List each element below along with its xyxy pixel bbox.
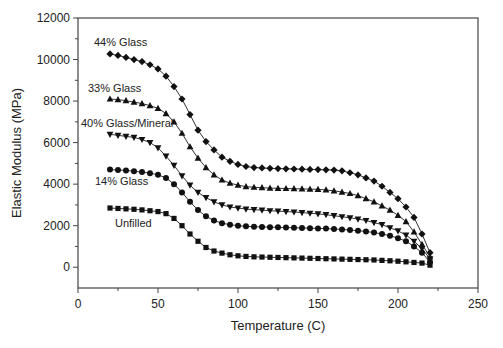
circle-marker-icon: [163, 175, 169, 181]
diamond-marker-icon: [314, 166, 321, 173]
circle-marker-icon: [283, 225, 289, 231]
diamond-marker-icon: [282, 165, 289, 172]
square-marker-icon: [379, 258, 384, 263]
triangle-up-marker-icon: [379, 202, 386, 208]
diamond-marker-icon: [346, 169, 353, 176]
square-marker-icon: [371, 257, 376, 262]
diamond-marker-icon: [234, 161, 241, 168]
diamond-marker-icon: [194, 127, 201, 134]
diamond-marker-icon: [130, 56, 137, 63]
diamond-marker-icon: [338, 167, 345, 174]
square-marker-icon: [163, 211, 168, 216]
y-tick-label: 12000: [37, 11, 71, 25]
series-label: 44% Glass: [94, 36, 148, 48]
series-label: Unfilled: [115, 217, 152, 229]
circle-marker-icon: [203, 213, 209, 219]
circle-marker-icon: [115, 167, 121, 173]
y-axis: 020004000600080001000012000: [37, 11, 78, 274]
square-marker-icon: [387, 258, 392, 263]
y-tick-label: 0: [63, 260, 70, 274]
square-marker-icon: [259, 254, 264, 259]
circle-marker-icon: [419, 250, 425, 256]
y-tick-label: 4000: [43, 177, 70, 191]
plot-frame: [78, 18, 478, 288]
square-marker-icon: [131, 207, 136, 212]
square-marker-icon: [195, 239, 200, 244]
square-marker-icon: [155, 209, 160, 214]
diamond-marker-icon: [362, 174, 369, 181]
series-14-glass: [107, 167, 433, 265]
square-marker-icon: [403, 259, 408, 264]
diamond-marker-icon: [146, 61, 153, 68]
diamond-marker-icon: [258, 164, 265, 171]
circle-marker-icon: [171, 181, 177, 187]
series-unfilled: [107, 205, 432, 267]
diamond-marker-icon: [330, 166, 337, 173]
circle-marker-icon: [211, 218, 217, 224]
triangle-up-marker-icon: [403, 218, 410, 224]
diamond-marker-icon: [290, 165, 297, 172]
square-marker-icon: [355, 257, 360, 262]
y-tick-label: 6000: [43, 136, 70, 150]
circle-marker-icon: [291, 225, 297, 231]
circle-marker-icon: [379, 231, 385, 237]
square-marker-icon: [211, 248, 216, 253]
circle-marker-icon: [331, 226, 337, 232]
square-marker-icon: [219, 251, 224, 256]
diamond-marker-icon: [274, 165, 281, 172]
x-tick-label: 50: [151, 297, 165, 311]
square-marker-icon: [347, 257, 352, 262]
series-label: 14% Glass: [95, 175, 149, 187]
triangle-up-marker-icon: [187, 143, 194, 149]
square-marker-icon: [139, 207, 144, 212]
triangle-up-marker-icon: [107, 95, 114, 101]
y-tick-label: 2000: [43, 219, 70, 233]
circle-marker-icon: [355, 228, 361, 234]
triangle-up-marker-icon: [395, 212, 402, 218]
triangle-up-marker-icon: [163, 110, 170, 116]
circle-marker-icon: [219, 220, 225, 226]
circle-marker-icon: [387, 233, 393, 239]
x-axis-title: Temperature (C): [231, 318, 326, 333]
square-marker-icon: [283, 255, 288, 260]
square-marker-icon: [107, 205, 112, 210]
series-line: [110, 134, 430, 259]
square-marker-icon: [339, 257, 344, 262]
circle-marker-icon: [411, 243, 417, 249]
diamond-marker-icon: [322, 166, 329, 173]
diamond-marker-icon: [242, 163, 249, 170]
circle-marker-icon: [187, 199, 193, 205]
square-marker-icon: [267, 255, 272, 260]
circle-marker-icon: [155, 172, 161, 178]
square-marker-icon: [123, 206, 128, 211]
square-marker-icon: [411, 260, 416, 265]
y-tick-label: 8000: [43, 94, 70, 108]
diamond-marker-icon: [122, 54, 129, 61]
circle-marker-icon: [123, 167, 129, 173]
square-marker-icon: [299, 255, 304, 260]
diamond-marker-icon: [138, 58, 145, 65]
x-tick-label: 0: [75, 297, 82, 311]
circle-marker-icon: [259, 224, 265, 230]
circle-marker-icon: [339, 226, 345, 232]
circle-marker-icon: [227, 222, 233, 228]
square-marker-icon: [427, 263, 432, 268]
circle-marker-icon: [307, 225, 313, 231]
triangle-down-marker-icon: [147, 140, 154, 146]
square-marker-icon: [331, 256, 336, 261]
square-marker-icon: [251, 254, 256, 259]
square-marker-icon: [291, 255, 296, 260]
circle-marker-icon: [363, 229, 369, 235]
diamond-marker-icon: [250, 164, 257, 171]
circle-marker-icon: [243, 223, 249, 229]
triangle-up-marker-icon: [219, 176, 226, 182]
diamond-marker-icon: [106, 50, 113, 57]
square-marker-icon: [307, 256, 312, 261]
diamond-marker-icon: [418, 230, 425, 237]
series-label: 40% Glass/Mineral: [81, 117, 173, 129]
square-marker-icon: [171, 216, 176, 221]
triangle-down-marker-icon: [403, 232, 410, 238]
circle-marker-icon: [371, 230, 377, 236]
square-marker-icon: [147, 208, 152, 213]
diamond-marker-icon: [306, 166, 313, 173]
